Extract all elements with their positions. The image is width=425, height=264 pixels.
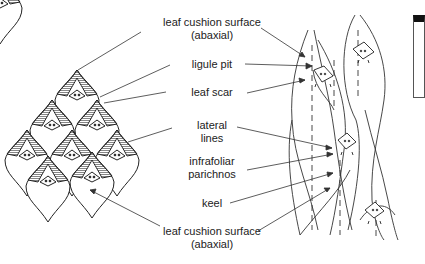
label-line: lateral: [197, 119, 227, 132]
label-line: lines: [197, 132, 227, 145]
label-lateral-lines: lateral lines: [197, 119, 227, 145]
label-ligule-pit: ligule pit: [192, 58, 232, 71]
lattice-cushions: [0, 0, 139, 222]
cropped-panel-frame: [413, 15, 425, 98]
label-line: (abaxial): [163, 238, 261, 251]
label-line: infrafoliar: [188, 155, 236, 168]
label-line: keel: [202, 197, 222, 210]
label-line: (abaxial): [163, 29, 261, 42]
label-line: leaf cushion surface: [163, 225, 261, 238]
label-leaf-scar: leaf scar: [191, 86, 233, 99]
label-infrafoliar-parichnos: infrafoliar parichnos: [188, 155, 236, 181]
label-line: parichnos: [188, 168, 236, 181]
label-line: leaf scar: [191, 86, 233, 99]
label-line: leaf cushion surface: [163, 16, 261, 29]
label-leaf-cushion-surface-bottom: leaf cushion surface (abaxial): [163, 225, 261, 251]
label-line: ligule pit: [192, 58, 232, 71]
elongated-cushions: [289, 15, 398, 240]
label-keel: keel: [202, 197, 222, 210]
label-leaf-cushion-surface-top: leaf cushion surface (abaxial): [163, 16, 261, 42]
